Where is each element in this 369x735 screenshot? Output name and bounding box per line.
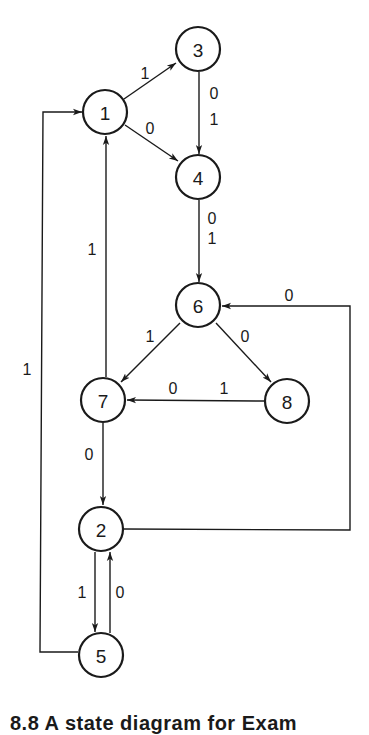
edge-label-4-to-6-top: 0	[208, 210, 217, 227]
edge-label-2-to-6: 0	[285, 287, 294, 304]
state-node-2-label: 2	[96, 520, 107, 541]
state-node-6-label: 6	[193, 296, 204, 317]
state-node-5: 5	[79, 633, 123, 677]
edge-label-6-to-8: 0	[241, 328, 250, 345]
edge-label-5-to-1: 1	[23, 361, 32, 378]
edge-label-8-to-7-left: 0	[169, 380, 178, 397]
figure-caption: 8.8 A state diagram for Exam	[10, 712, 297, 735]
nodes: 1 2 3 4 5 6 7 8	[79, 27, 309, 677]
edge-5-to-1	[40, 112, 82, 652]
state-node-4-label: 4	[193, 168, 204, 189]
edge-label-3-to-4-bottom: 1	[210, 111, 219, 128]
edge-label-8-to-7-right: 1	[220, 380, 229, 397]
state-node-6: 6	[176, 283, 220, 327]
edge-label-3-to-4-top: 0	[210, 85, 219, 102]
edge-label-1-to-3: 1	[141, 65, 150, 82]
edge-labels: 1 0 0 1 0 1 1 0 0 1 1 0 0 1 0 1	[23, 65, 294, 601]
edge-8-to-7	[127, 400, 264, 401]
state-node-2: 2	[79, 507, 123, 551]
edges	[40, 63, 350, 652]
state-node-4: 4	[176, 155, 220, 199]
state-node-7: 7	[81, 378, 125, 422]
state-node-1: 1	[83, 90, 127, 134]
edge-label-4-to-6-bottom: 1	[208, 230, 217, 247]
state-node-7-label: 7	[98, 391, 109, 412]
edge-2-to-6	[124, 306, 350, 530]
edge-1-to-3	[124, 63, 176, 99]
edge-label-6-to-7: 1	[146, 328, 155, 345]
state-node-3-label: 3	[193, 40, 204, 61]
edge-label-7-to-2: 0	[85, 446, 94, 463]
edge-label-2-to-5: 1	[78, 584, 87, 601]
state-node-8: 8	[265, 379, 309, 423]
state-node-5-label: 5	[96, 646, 107, 667]
edge-label-1-to-4: 0	[146, 120, 155, 137]
edge-label-7-to-1: 1	[88, 241, 97, 258]
state-node-8-label: 8	[282, 392, 293, 413]
state-node-3: 3	[176, 27, 220, 71]
state-node-1-label: 1	[100, 103, 111, 124]
edge-label-5-to-2: 0	[116, 584, 125, 601]
